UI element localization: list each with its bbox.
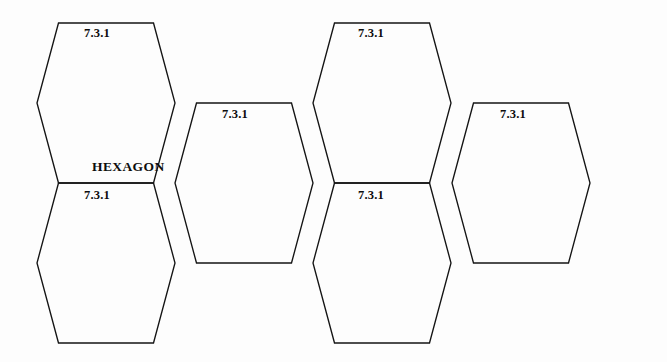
hexagon-version-label: 7.3.1 — [500, 108, 526, 121]
hexagon-version-label: 7.3.1 — [358, 189, 384, 202]
hexagon-version-label: 7.3.1 — [222, 108, 248, 121]
hexagon-title-label: HEXAGON — [92, 160, 165, 174]
hexagon-shape-group — [37, 23, 590, 343]
hexagon-tiling-canvas — [0, 0, 667, 362]
hexagon-version-label: 7.3.1 — [84, 189, 110, 202]
hexagon-version-label: 7.3.1 — [358, 27, 384, 40]
hexagon-cell[interactable] — [37, 183, 175, 343]
hexagon-diagram: 7.3.1HEXAGON7.3.17.3.17.3.17.3.17.3.1 — [0, 0, 667, 362]
hexagon-cell[interactable] — [452, 103, 590, 263]
hexagon-cell[interactable] — [175, 103, 313, 263]
hexagon-version-label: 7.3.1 — [84, 27, 110, 40]
hexagon-cell[interactable] — [313, 183, 451, 343]
hexagon-cell[interactable] — [313, 23, 451, 183]
